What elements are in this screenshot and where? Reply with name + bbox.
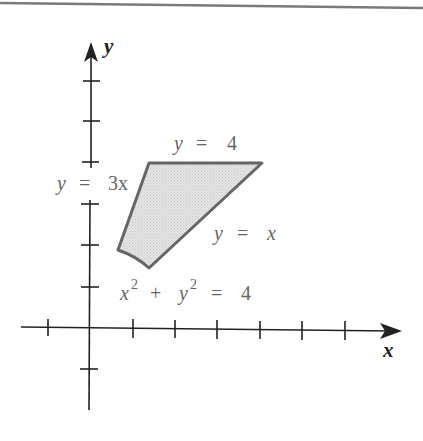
- label-y-equals-4: y = 4: [172, 132, 237, 155]
- x-axis-label: x: [382, 338, 394, 362]
- top-rule: [0, 3, 423, 8]
- svg-text:2: 2: [190, 277, 197, 292]
- svg-text:2: 2: [131, 277, 138, 292]
- svg-text:=: =: [237, 222, 248, 244]
- svg-text:x: x: [266, 222, 276, 244]
- label-y-equals-3x: y = 3x: [55, 172, 128, 195]
- label-circle-equation: x 2 + y 2 = 4: [119, 277, 251, 305]
- svg-text:4: 4: [227, 132, 237, 154]
- svg-text:y: y: [177, 282, 188, 305]
- svg-text:=: =: [79, 172, 90, 194]
- svg-text:+: +: [150, 282, 161, 304]
- svg-text:y: y: [172, 132, 183, 155]
- y-axis: y: [80, 34, 114, 410]
- svg-text:y: y: [212, 222, 223, 245]
- region-diagram: x y y = 4 y = 3x y = x x 2: [0, 0, 423, 441]
- svg-text:x: x: [119, 282, 129, 304]
- x-axis: x: [21, 319, 402, 362]
- svg-text:=: =: [211, 282, 222, 304]
- svg-text:3x: 3x: [108, 172, 128, 194]
- svg-text:=: =: [196, 132, 207, 154]
- svg-text:y: y: [55, 172, 66, 195]
- y-axis-label: y: [101, 34, 114, 58]
- svg-text:4: 4: [241, 282, 251, 304]
- shaded-region: [118, 163, 262, 268]
- label-y-equals-x: y = x: [212, 222, 276, 245]
